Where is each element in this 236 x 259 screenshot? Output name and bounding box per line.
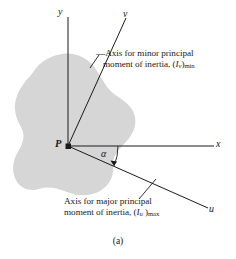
principal-axes-figure: y v x u P α —Axis for minor principal mo… [0, 0, 236, 259]
minor-axis-callout-line2: moment of inertia, (Iv)min [96, 59, 195, 70]
minor-callout-sub: min [184, 62, 194, 69]
v-axis-label: v [123, 8, 127, 20]
u-axis-label: u [209, 203, 214, 215]
minor-axis-callout: —Axis for minor principal moment of iner… [96, 48, 195, 70]
y-axis-label: y [58, 6, 62, 18]
major-axis-callout: Axis for major principal moment of inert… [64, 196, 159, 218]
x-axis-label: x [216, 138, 220, 150]
figure-caption: (a) [0, 236, 236, 246]
major-callout-sub: max [148, 210, 159, 217]
origin-point-label: P [55, 138, 61, 150]
major-axis-callout-line2: moment of inertia, (Iu )max [64, 207, 159, 218]
major-callout-prefix: moment of inertia, ( [64, 207, 136, 217]
minor-callout-prefix: moment of inertia, ( [103, 59, 175, 69]
angle-alpha-label: α [101, 148, 106, 160]
diagram-canvas [0, 0, 236, 259]
minor-axis-callout-line1: —Axis for minor principal [96, 48, 194, 58]
cross-section-area [13, 54, 135, 196]
origin-point-marker [66, 144, 72, 150]
major-axis-callout-line1: Axis for major principal [64, 196, 152, 206]
